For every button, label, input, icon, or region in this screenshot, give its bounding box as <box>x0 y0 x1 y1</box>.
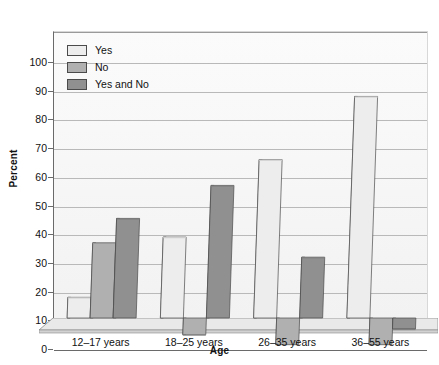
y-tick-mark-40 <box>48 234 53 235</box>
y-tick-mark-20 <box>48 292 53 293</box>
y-tick-mark-60 <box>48 177 53 178</box>
y-tick-mark-50 <box>48 206 53 207</box>
y-tick-label-100: 100 <box>29 57 47 68</box>
x-axis-title: Age <box>0 345 439 356</box>
legend: YesNoYes and No <box>63 40 153 95</box>
gridline-60 <box>54 178 427 179</box>
gridline-50 <box>54 207 427 208</box>
y-tick-mark-10 <box>48 320 53 321</box>
y-tick-label-20: 20 <box>35 286 47 297</box>
legend-swatch-icon <box>67 79 87 90</box>
gridline-10 <box>54 321 427 322</box>
legend-swatch-icon <box>67 62 87 73</box>
legend-label: No <box>95 62 108 73</box>
y-tick-mark-70 <box>48 148 53 149</box>
legend-item-no[interactable]: No <box>67 59 149 76</box>
y-tick-label-10: 10 <box>35 315 47 326</box>
y-tick-mark-90 <box>48 91 53 92</box>
y-tick-label-80: 80 <box>35 114 47 125</box>
bar-chart: Percent 0102030405060708090100 12–17 yea… <box>0 0 439 365</box>
legend-label: Yes <box>95 45 112 56</box>
gridline-70 <box>54 149 427 150</box>
y-tick-label-40: 40 <box>35 229 47 240</box>
y-tick-mark-100 <box>48 62 53 63</box>
legend-item-yes[interactable]: Yes <box>67 42 149 59</box>
legend-item-yes-and-no[interactable]: Yes and No <box>67 76 149 93</box>
y-tick-label-50: 50 <box>35 200 47 211</box>
legend-swatch-icon <box>67 45 87 56</box>
y-tick-label-60: 60 <box>35 172 47 183</box>
bar-yes-and-no-3 <box>392 318 415 330</box>
y-tick-mark-80 <box>48 119 53 120</box>
y-tick-mark-30 <box>48 263 53 264</box>
y-tick-label-90: 90 <box>35 85 47 96</box>
y-tick-label-70: 70 <box>35 143 47 154</box>
gridline-40 <box>54 235 427 236</box>
y-axis-title: Percent <box>8 134 19 204</box>
y-tick-label-30: 30 <box>35 258 47 269</box>
legend-label: Yes and No <box>95 79 149 90</box>
gridline-30 <box>54 264 427 265</box>
gridline-20 <box>54 293 427 294</box>
gridline-80 <box>54 120 427 121</box>
